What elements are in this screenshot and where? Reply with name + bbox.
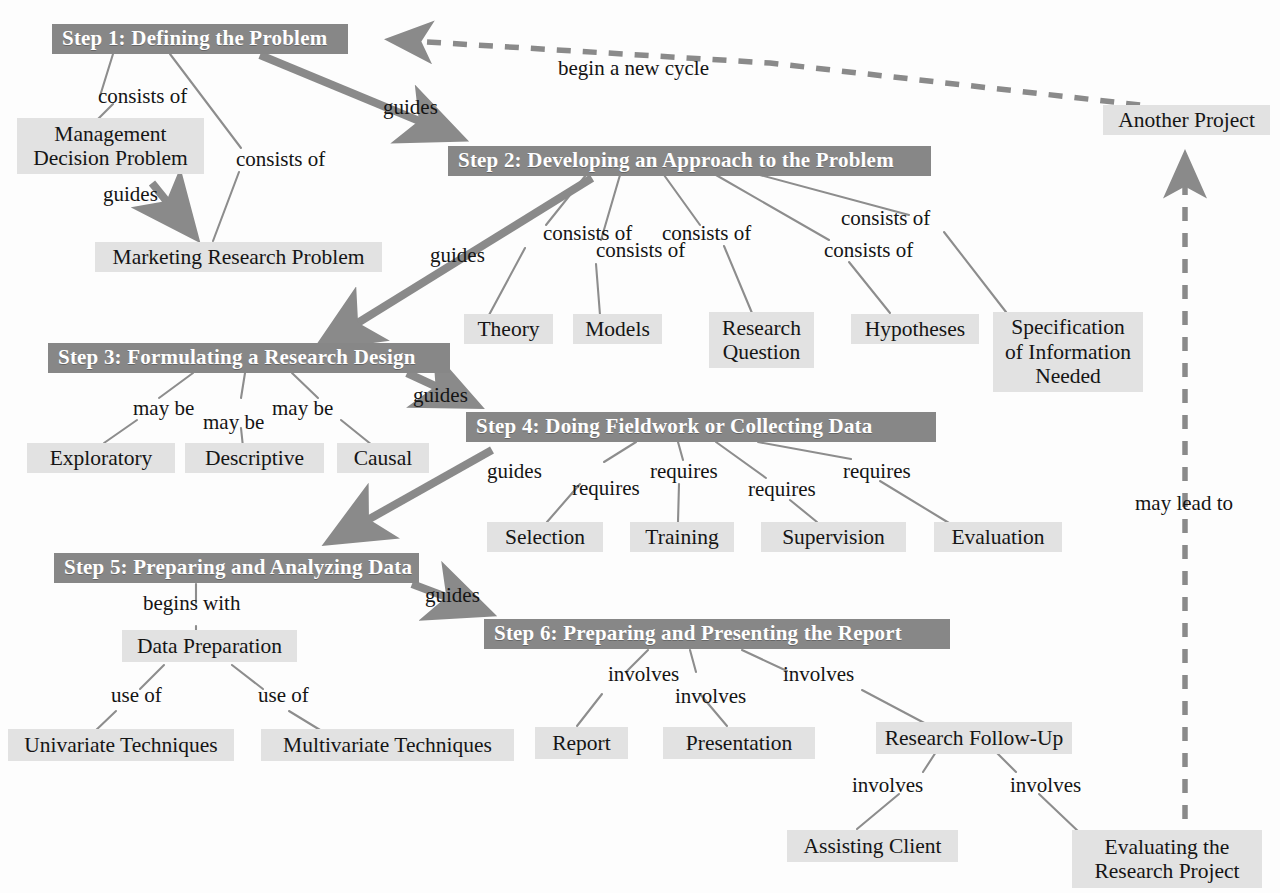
- edge-step2-rq-b: [724, 246, 752, 313]
- edge-label-use-of-1: use of: [111, 683, 162, 708]
- node-research-question-label: Research Question: [722, 316, 801, 365]
- edge-fu-assist-b: [857, 794, 899, 829]
- node-step6-label: Step 6: Preparing and Presenting the Rep…: [494, 622, 902, 646]
- node-hypotheses[interactable]: Hypotheses: [851, 314, 979, 344]
- edge-label-use-of-2: use of: [258, 683, 309, 708]
- node-specification-of-information-needed[interactable]: Specification of Information Needed: [993, 312, 1143, 392]
- edge-label-consists-of-5: consists of: [662, 221, 751, 246]
- edge-fu-eval-b: [1039, 794, 1080, 833]
- node-evaluation[interactable]: Evaluation: [934, 522, 1062, 552]
- edge-step4-tra-a: [678, 442, 683, 460]
- edge-step4-eva-b: [880, 481, 949, 523]
- node-evaluating-the-research-project-label: Evaluating the Research Project: [1094, 835, 1239, 884]
- node-data-preparation-label: Data Preparation: [137, 634, 282, 659]
- node-step2-label: Step 2: Developing an Approach to the Pr…: [458, 149, 894, 173]
- node-management-decision-problem[interactable]: Management Decision Problem: [17, 118, 204, 174]
- edge-label-consists-of-2: consists of: [236, 147, 325, 172]
- node-presentation[interactable]: Presentation: [663, 727, 815, 759]
- node-supervision-label: Supervision: [782, 525, 885, 550]
- node-step1[interactable]: Step 1: Defining the Problem: [52, 24, 348, 54]
- node-research-question[interactable]: Research Question: [709, 312, 814, 368]
- node-training-label: Training: [645, 525, 718, 550]
- edge-step2-theory-b: [489, 248, 525, 315]
- node-descriptive[interactable]: Descriptive: [185, 443, 324, 473]
- node-research-follow-up-label: Research Follow-Up: [885, 726, 1064, 751]
- edge-label-may-be-3: may be: [272, 396, 333, 421]
- edge-step4-sup-b: [790, 500, 817, 522]
- node-models[interactable]: Models: [573, 314, 662, 344]
- edge-label-begins-with: begins with: [143, 591, 240, 616]
- node-theory-label: Theory: [477, 317, 539, 342]
- node-step3-label: Step 3: Formulating a Research Design: [58, 346, 416, 370]
- node-descriptive-label: Descriptive: [205, 446, 304, 471]
- node-management-decision-problem-label: Management Decision Problem: [33, 122, 188, 171]
- diagram-canvas: Step 1: Defining the Problem Step 2: Dev…: [0, 0, 1280, 893]
- edge-label-guides-5: guides: [487, 459, 542, 484]
- node-training[interactable]: Training: [630, 522, 734, 552]
- node-theory[interactable]: Theory: [464, 314, 553, 344]
- edge-label-involves-1: involves: [608, 662, 679, 687]
- edge-label-guides-2: guides: [103, 182, 158, 207]
- node-exploratory[interactable]: Exploratory: [27, 443, 175, 473]
- node-exploratory-label: Exploratory: [50, 446, 153, 471]
- edge-guides-mgmt-mkt: [152, 183, 193, 234]
- edge-step3-caus-b: [341, 420, 372, 445]
- edge-label-requires-1: requires: [572, 476, 640, 501]
- edge-step6-fu-a: [742, 650, 787, 671]
- node-marketing-research-problem[interactable]: Marketing Research Problem: [95, 242, 382, 272]
- node-hypotheses-label: Hypotheses: [865, 317, 965, 342]
- node-presentation-label: Presentation: [686, 731, 792, 756]
- node-report[interactable]: Report: [535, 727, 628, 759]
- edge-label-involves-3: involves: [783, 662, 854, 687]
- edge-step1-mkt-b: [213, 172, 239, 241]
- edge-fu-eval-a: [996, 752, 1016, 772]
- node-univariate-techniques-label: Univariate Techniques: [24, 733, 217, 758]
- edge-step4-sup-a: [716, 442, 766, 478]
- edge-label-may-be-2: may be: [203, 410, 264, 435]
- node-selection[interactable]: Selection: [487, 522, 603, 552]
- edge-step2-spec-b: [944, 232, 1006, 312]
- edge-label-guides-1: guides: [383, 95, 438, 120]
- edge-step3-expl-a: [159, 373, 193, 398]
- node-step5-label: Step 5: Preparing and Analyzing Data: [64, 556, 412, 580]
- node-assisting-client-label: Assisting Client: [804, 834, 942, 859]
- node-causal[interactable]: Causal: [337, 443, 429, 473]
- node-causal-label: Causal: [354, 446, 413, 471]
- edge-label-requires-3: requires: [748, 477, 816, 502]
- edge-label-involves-2: involves: [675, 684, 746, 709]
- node-another-project-label: Another Project: [1118, 108, 1255, 133]
- edge-fu-assist-a: [923, 752, 936, 772]
- edge-label-may-lead-to: may lead to: [1135, 491, 1233, 516]
- node-step4-label: Step 4: Doing Fieldwork or Collecting Da…: [476, 415, 873, 439]
- node-evaluating-the-research-project[interactable]: Evaluating the Research Project: [1072, 830, 1262, 888]
- node-step3[interactable]: Step 3: Formulating a Research Design: [48, 343, 450, 373]
- edge-step4-tra-b: [678, 484, 679, 522]
- edge-step6-fu-b: [862, 690, 930, 726]
- edge-label-involves-4: involves: [852, 773, 923, 798]
- node-data-preparation[interactable]: Data Preparation: [122, 630, 297, 662]
- node-evaluation-label: Evaluation: [951, 525, 1044, 550]
- node-specification-of-information-needed-label: Specification of Information Needed: [1005, 315, 1131, 389]
- node-assisting-client[interactable]: Assisting Client: [787, 830, 958, 862]
- node-univariate-techniques[interactable]: Univariate Techniques: [8, 729, 234, 761]
- node-step4[interactable]: Step 4: Doing Fieldwork or Collecting Da…: [466, 412, 936, 442]
- edge-step2-rq-a: [664, 175, 700, 225]
- node-another-project[interactable]: Another Project: [1103, 105, 1270, 135]
- edge-label-involves-5: involves: [1010, 773, 1081, 798]
- edge-step2-hyp-b: [849, 262, 890, 313]
- node-research-follow-up[interactable]: Research Follow-Up: [876, 722, 1072, 754]
- edge-label-consists-of-6: consists of: [824, 238, 913, 263]
- edge-step4-eva-a: [758, 442, 851, 459]
- node-multivariate-techniques[interactable]: Multivariate Techniques: [261, 729, 514, 761]
- node-supervision[interactable]: Supervision: [761, 522, 906, 552]
- node-multivariate-techniques-label: Multivariate Techniques: [283, 733, 492, 758]
- edge-label-guides-3: guides: [430, 243, 485, 268]
- node-step5[interactable]: Step 5: Preparing and Analyzing Data: [54, 553, 419, 583]
- node-step6[interactable]: Step 6: Preparing and Presenting the Rep…: [484, 619, 950, 649]
- edge-step4-sel-a: [604, 442, 636, 462]
- edge-label-requires-2: requires: [650, 459, 718, 484]
- node-step2[interactable]: Step 2: Developing an Approach to the Pr…: [448, 146, 931, 176]
- node-report-label: Report: [552, 731, 611, 756]
- node-models-label: Models: [585, 317, 650, 342]
- edge-begin-new-cycle: [395, 40, 1140, 105]
